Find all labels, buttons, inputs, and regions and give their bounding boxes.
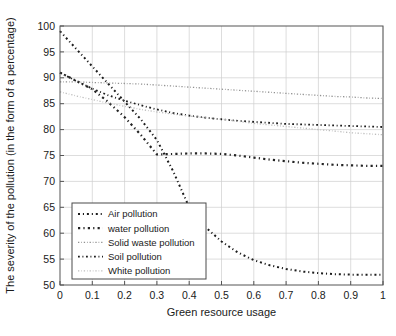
y-tick-label: 65 [43,201,55,213]
x-tick-label: 0.1 [85,289,100,301]
y-tick-label: 50 [43,279,55,291]
y-tick-label: 60 [43,227,55,239]
figure-caption [0,322,396,336]
x-tick-label: 0.4 [182,289,197,301]
y-tick-label: 90 [43,71,55,83]
y-tick-label: 85 [43,97,55,109]
y-tick-label: 75 [43,149,55,161]
y-tick-label: 55 [43,253,55,265]
figure-container: 00.10.20.30.40.50.60.70.80.91 5055606570… [0,0,396,336]
y-tick-label: 80 [43,123,55,135]
y-tick-label: 70 [43,175,55,187]
chart-legend: Air pollutionwater pollutionSolid waste … [72,203,206,279]
y-axis-title: The severity of the pollution (in the fo… [4,17,16,293]
x-tick-label: 0 [57,289,63,301]
x-tick-label: 0.2 [117,289,132,301]
x-tick-label: 0.9 [343,289,358,301]
x-tick-label: 0.5 [214,289,229,301]
pollution-severity-line-chart: 00.10.20.30.40.50.60.70.80.91 5055606570… [0,0,396,336]
x-axis-title: Green resource usage [167,306,276,318]
legend-label-soil-pollution: Soil pollution [108,251,162,262]
legend-label-solid-waste-pollution: Solid waste pollution [108,237,195,248]
y-tick-label: 100 [37,20,55,32]
legend-label-white-pollution: White pollution [108,265,170,276]
x-tick-label: 0.6 [246,289,261,301]
x-tick-label: 0.3 [150,289,165,301]
x-tick-label: 1 [380,289,386,301]
x-axis-tick-labels: 00.10.20.30.40.50.60.70.80.91 [57,281,386,301]
x-tick-label: 0.7 [279,289,294,301]
legend-label-air-pollution: Air pollution [108,208,158,219]
legend-label-water-pollution: water pollution [107,223,169,234]
y-tick-label: 95 [43,46,55,58]
x-tick-label: 0.8 [311,289,326,301]
